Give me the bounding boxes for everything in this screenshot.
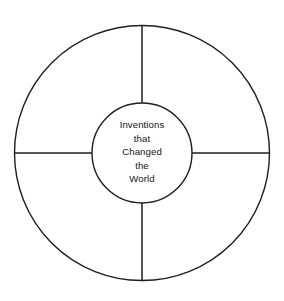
diagram-canvas: Inventions that Changed the World bbox=[0, 0, 284, 301]
concentric-circle-diagram bbox=[0, 0, 284, 301]
inner-circle[interactable] bbox=[92, 103, 192, 203]
